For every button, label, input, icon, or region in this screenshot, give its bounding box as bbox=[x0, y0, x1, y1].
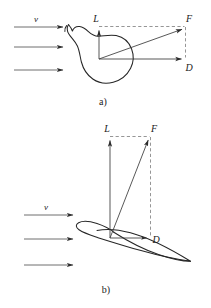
airfoil-outline bbox=[76, 221, 190, 261]
panel-a-force-vector bbox=[99, 29, 182, 59]
panel-a-velocity-label: v bbox=[34, 14, 38, 24]
panel-b-caption: b) bbox=[102, 284, 110, 296]
aerodynamic-force-diagram: v L F D a) bbox=[0, 0, 211, 308]
blunt-body-outline bbox=[67, 25, 133, 84]
panel-a: v L F D a) bbox=[14, 13, 193, 108]
panel-b-drag-label: D bbox=[151, 234, 160, 245]
panel-b-velocity-label: v bbox=[44, 202, 48, 212]
figure-root: v L F D a) bbox=[0, 0, 211, 308]
panel-a-lift-label: L bbox=[92, 13, 99, 24]
panel-b: v L F D b) bbox=[24, 123, 191, 296]
panel-b-flow-arrows bbox=[24, 215, 73, 265]
panel-b-force-label: F bbox=[150, 123, 158, 134]
panel-a-drag-label: D bbox=[184, 62, 193, 73]
panel-b-force-vector bbox=[110, 140, 148, 238]
panel-a-caption: a) bbox=[99, 96, 107, 108]
panel-a-flow-arrows bbox=[14, 27, 63, 70]
blunt-body-leading-cusp bbox=[65, 26, 67, 32]
panel-a-force-label: F bbox=[185, 13, 193, 24]
panel-b-lift-label: L bbox=[103, 123, 110, 134]
